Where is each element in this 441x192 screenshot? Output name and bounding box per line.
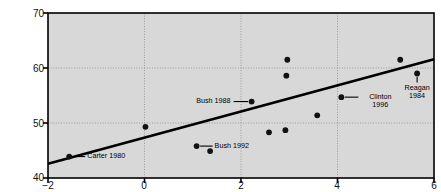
annotation-bush-1988: Bush 1988: [159, 97, 231, 105]
annotation-reagan-1984: Reagan 1984: [396, 84, 438, 101]
annotation-clinton-line2: 1996: [359, 101, 401, 109]
annotation-carter-1980: Carter 1980: [87, 152, 125, 160]
annotation-reagan-line2: 1984: [396, 92, 438, 100]
annotation-clinton-1996: Clinton 1996: [359, 93, 401, 110]
scatter-plot-figure: Percentage of vote for incumbent party 7…: [0, 0, 441, 192]
annotation-bush-1992: Bush 1992: [215, 142, 249, 150]
